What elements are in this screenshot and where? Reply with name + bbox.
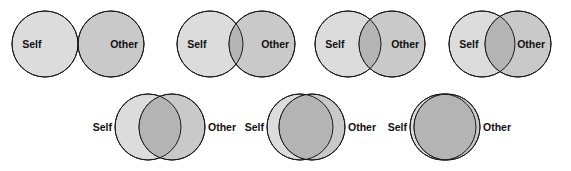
ios-pair-7[interactable]: SelfOther [388, 94, 511, 160]
self-label: Self [325, 38, 345, 50]
ios-pair-3[interactable]: SelfOther [315, 11, 425, 77]
other-label: Other [391, 38, 419, 50]
self-label: Self [245, 121, 265, 133]
ios-pair-2[interactable]: SelfOther [177, 11, 295, 77]
self-label: Self [459, 38, 479, 50]
other-label: Other [348, 121, 376, 133]
ios-pair-4[interactable]: SelfOther [449, 11, 551, 77]
self-label: Self [22, 38, 42, 50]
self-label: Self [388, 121, 408, 133]
ios-pair-5[interactable]: SelfOther [93, 94, 236, 160]
other-label: Other [517, 38, 545, 50]
other-label: Other [261, 38, 289, 50]
other-label: Other [483, 121, 511, 133]
other-label: Other [110, 38, 138, 50]
other-label: Other [208, 121, 236, 133]
ios-scale-figure: SelfOtherSelfOtherSelfOtherSelfOtherSelf… [0, 0, 571, 171]
ios-pair-6[interactable]: SelfOther [245, 94, 376, 160]
self-label: Self [187, 38, 207, 50]
ios-pair-1[interactable]: SelfOther [12, 11, 144, 77]
self-label: Self [93, 121, 113, 133]
